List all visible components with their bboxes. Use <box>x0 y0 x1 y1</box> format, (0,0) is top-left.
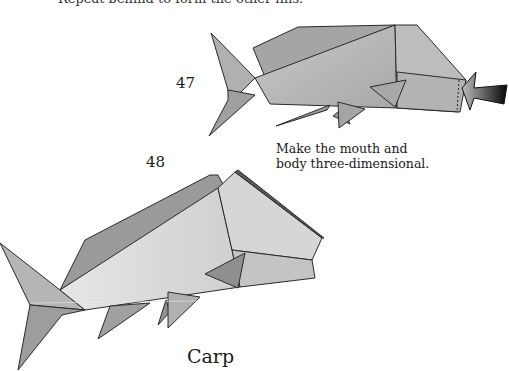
push-arrow-icon <box>462 72 507 110</box>
step-47-fish-diagram <box>0 0 509 371</box>
step-48-fish-diagram <box>0 170 324 370</box>
